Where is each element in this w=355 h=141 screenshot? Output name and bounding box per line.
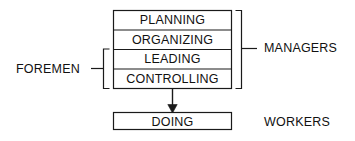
row-label-organizing: ORGANIZING (113, 34, 232, 47)
foremen-bracket (104, 49, 110, 89)
bracket-label-foremen: FOREMEN (16, 63, 80, 76)
doing-arrow-head (168, 105, 177, 114)
row-label-controlling: CONTROLLING (113, 73, 232, 86)
row-label-planning: PLANNING (113, 14, 232, 27)
row-label-leading: LEADING (113, 53, 232, 66)
diagram-canvas: PLANNING ORGANIZING LEADING CONTROLLING … (0, 0, 355, 141)
row-label-doing: DOING (113, 116, 232, 129)
bracket-label-managers: MANAGERS (264, 42, 337, 55)
label-workers: WORKERS (264, 116, 330, 129)
managers-bracket (236, 11, 242, 89)
